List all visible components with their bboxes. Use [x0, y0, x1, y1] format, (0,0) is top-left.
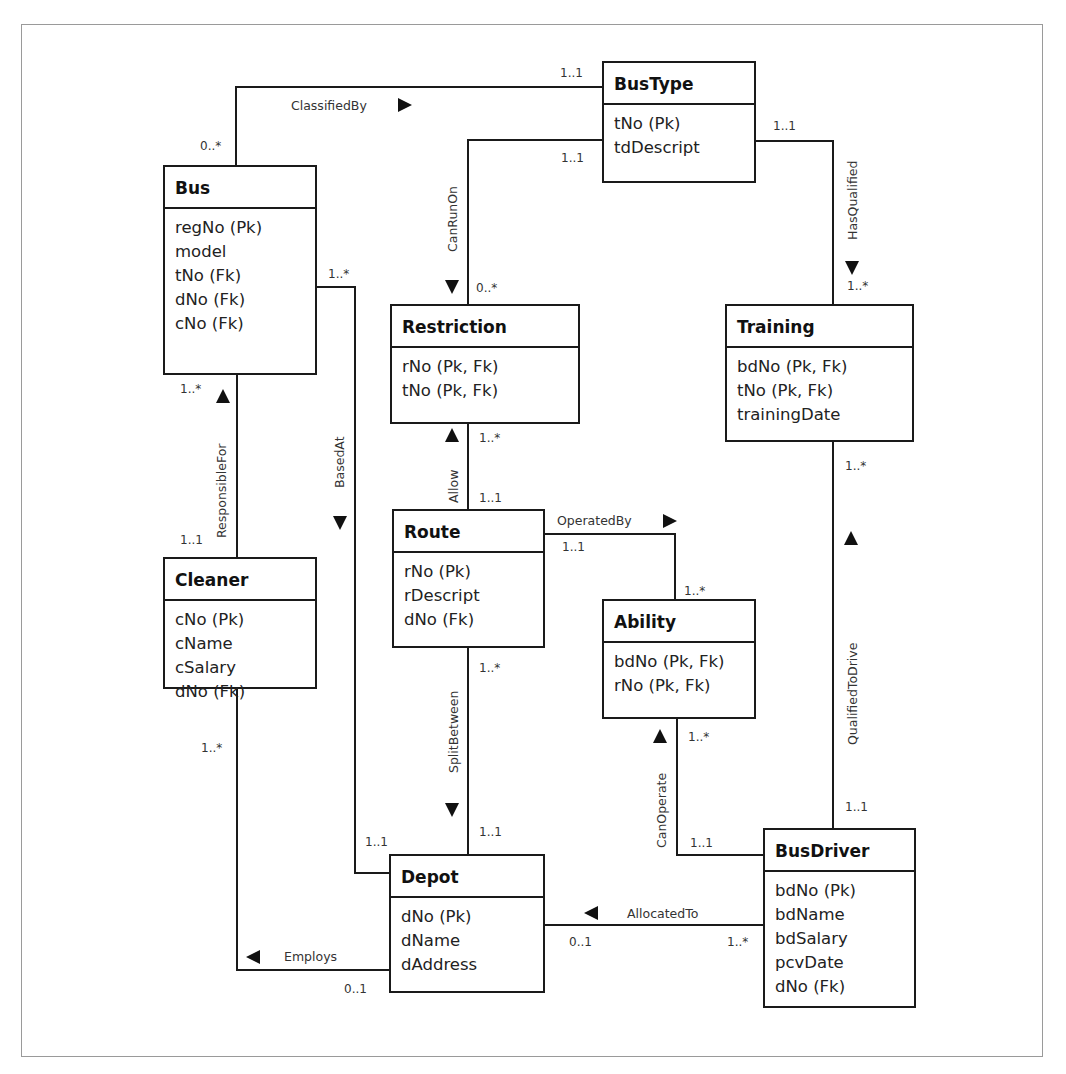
relationship-allocatedto: AllocatedTo0..11..*	[544, 906, 764, 949]
multiplicity-label: 1..*	[845, 459, 866, 473]
multiplicity-label: 1..*	[328, 267, 349, 281]
relationship-label: ClassifiedBy	[291, 98, 367, 113]
entity-busdriver[interactable]: BusDriverbdNo (Pk)bdNamebdSalarypcvDated…	[764, 829, 915, 1007]
entity-attribute: bdNo (Pk)	[775, 881, 856, 900]
direction-arrow-up-icon	[445, 428, 459, 442]
multiplicity-label: 1..1	[479, 491, 502, 505]
relationship-canrunon: CanRunOn1..10..*	[445, 140, 603, 305]
er-diagram: ClassifiedBy0..*1..1CanRunOn1..10..*HasQ…	[0, 0, 1066, 1074]
entity-attribute: dNo (Pk)	[401, 907, 472, 926]
relationship-classifiedby: ClassifiedBy0..*1..1	[200, 66, 603, 166]
relationship-label: Allow	[446, 470, 461, 503]
entity-attribute: bdNo (Pk, Fk)	[614, 652, 725, 671]
direction-arrow-right-icon	[398, 98, 412, 112]
direction-arrow-down-icon	[445, 803, 459, 817]
relationship-label: OperatedBy	[557, 513, 632, 528]
entity-bus[interactable]: BusregNo (Pk)modeltNo (Fk)dNo (Fk)cNo (F…	[164, 166, 316, 374]
relationship-label: Employs	[284, 949, 337, 964]
direction-arrow-down-icon	[333, 516, 347, 530]
entity-attribute: tdDescript	[614, 138, 700, 157]
entity-ability[interactable]: AbilitybdNo (Pk, Fk)rNo (Pk, Fk)	[603, 600, 755, 718]
entity-attribute: dNo (Fk)	[175, 682, 245, 701]
multiplicity-label: 1..1	[365, 835, 388, 849]
entity-attribute: trainingDate	[737, 405, 840, 424]
entity-attribute: rNo (Pk, Fk)	[614, 676, 710, 695]
entity-title: Depot	[401, 867, 459, 887]
entity-title: Cleaner	[175, 570, 249, 590]
relationship-operatedby: OperatedBy1..11..*	[544, 513, 705, 600]
multiplicity-label: 1..1	[562, 540, 585, 554]
relationship-allow: Allow1..*1..1	[445, 423, 502, 510]
entity-title: Bus	[175, 178, 210, 198]
entity-title: Restriction	[402, 317, 507, 337]
multiplicity-label: 1..1	[561, 151, 584, 165]
entity-attribute: tNo (Pk)	[614, 114, 681, 133]
entity-attribute: model	[175, 242, 226, 261]
relationship-label: BasedAt	[332, 436, 347, 488]
entities-layer: BusTypetNo (Pk)tdDescriptBusregNo (Pk)mo…	[164, 62, 915, 1007]
entity-attribute: dNo (Fk)	[175, 290, 245, 309]
entity-depot[interactable]: DepotdNo (Pk)dNamedAddress	[390, 855, 544, 992]
entity-attribute: cNo (Pk)	[175, 610, 244, 629]
relationship-line	[237, 688, 390, 970]
multiplicity-label: 1..1	[560, 66, 583, 80]
direction-arrow-left-icon	[246, 950, 260, 964]
entity-attribute: rDescript	[404, 586, 480, 605]
relationship-responsiblefor: ResponsibleFor1..*1..1	[180, 374, 237, 558]
multiplicity-label: 1..*	[847, 279, 868, 293]
entity-attribute: dAddress	[401, 955, 477, 974]
entity-route[interactable]: RouterNo (Pk)rDescriptdNo (Fk)	[393, 510, 544, 647]
entity-bustype[interactable]: BusTypetNo (Pk)tdDescript	[603, 62, 755, 182]
entity-attribute: dNo (Fk)	[404, 610, 474, 629]
relationship-basedat: BasedAt1..*1..1	[316, 267, 390, 873]
relationship-line	[755, 141, 833, 305]
relationship-label: HasQualified	[845, 161, 860, 240]
direction-arrow-up-icon	[216, 389, 230, 403]
entity-attribute: pcvDate	[775, 953, 844, 972]
multiplicity-label: 1..1	[845, 800, 868, 814]
entity-title: Route	[404, 522, 461, 542]
entity-attribute: cSalary	[175, 658, 236, 677]
entity-attribute: bdSalary	[775, 929, 848, 948]
relationship-line	[316, 287, 390, 873]
relationship-label: SplitBetween	[446, 691, 461, 773]
entity-attribute: bdNo (Pk, Fk)	[737, 357, 848, 376]
relationship-label: CanRunOn	[445, 186, 460, 252]
direction-arrow-down-icon	[845, 261, 859, 275]
entity-attribute: tNo (Pk, Fk)	[737, 381, 833, 400]
entity-attribute: bdName	[775, 905, 845, 924]
entity-title: Training	[737, 317, 815, 337]
entity-attribute: cName	[175, 634, 233, 653]
multiplicity-label: 1..1	[690, 836, 713, 850]
multiplicity-label: 1..*	[180, 382, 201, 396]
relationship-qualifiedtodrive: QualifiedToDrive1..*1..1	[833, 441, 868, 829]
relationship-canoperate: CanOperate1..*1..1	[653, 718, 764, 855]
multiplicity-label: 1..*	[479, 431, 500, 445]
multiplicity-label: 1..*	[684, 584, 705, 598]
entity-title: BusType	[614, 74, 694, 94]
direction-arrow-down-icon	[445, 280, 459, 294]
entity-attribute: tNo (Fk)	[175, 266, 241, 285]
multiplicity-label: 1..1	[479, 825, 502, 839]
multiplicity-label: 1..*	[479, 661, 500, 675]
entity-title: Ability	[614, 612, 676, 632]
multiplicity-label: 1..*	[688, 730, 709, 744]
relationship-splitbetween: SplitBetween1..*1..1	[445, 647, 502, 855]
entity-training[interactable]: TrainingbdNo (Pk, Fk)tNo (Pk, Fk)trainin…	[726, 305, 913, 441]
direction-arrow-right-icon	[663, 514, 677, 528]
entity-restriction[interactable]: RestrictionrNo (Pk, Fk)tNo (Pk, Fk)	[391, 305, 579, 423]
entity-attribute: regNo (Pk)	[175, 218, 262, 237]
entity-cleaner[interactable]: CleanercNo (Pk)cNamecSalarydNo (Fk)	[164, 558, 316, 701]
multiplicity-label: 1..1	[180, 533, 203, 547]
entity-title: BusDriver	[775, 841, 870, 861]
multiplicity-label: 0..1	[569, 935, 592, 949]
multiplicity-label: 0..1	[344, 982, 367, 996]
entity-attribute: rNo (Pk, Fk)	[402, 357, 498, 376]
multiplicity-label: 0..*	[200, 139, 221, 153]
relationship-hasqualified: HasQualified1..11..*	[755, 119, 868, 305]
relationship-label: ResponsibleFor	[214, 443, 229, 538]
multiplicity-label: 1..*	[201, 741, 222, 755]
multiplicity-label: 1..1	[773, 119, 796, 133]
multiplicity-label: 0..*	[476, 281, 497, 295]
entity-attribute: rNo (Pk)	[404, 562, 471, 581]
